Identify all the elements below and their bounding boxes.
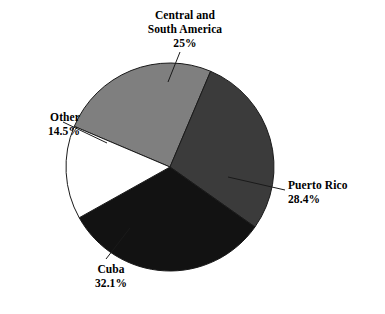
pie-label-name: Cuba — [72, 262, 150, 276]
pie-label-puerto-rico: Puerto Rico 28.4% — [288, 178, 384, 206]
pie-chart: Central and South America 25% Other 14.5… — [0, 0, 385, 314]
pie-label-value: 32.1% — [72, 276, 150, 290]
pie-label-value: 28.4% — [288, 192, 384, 206]
pie-label-name: Puerto Rico — [288, 178, 384, 192]
pie-label-name: Central and — [118, 8, 252, 22]
pie-label-cuba: Cuba 32.1% — [72, 262, 150, 290]
pie-label-central-and-south-america: Central and South America 25% — [118, 8, 252, 50]
pie-label-name-line2: South America — [118, 22, 252, 36]
pie-label-value: 14.5% — [8, 124, 80, 138]
pie-label-name: Other — [8, 110, 80, 124]
pie-label-value: 25% — [118, 36, 252, 50]
pie-label-other: Other 14.5% — [8, 110, 80, 138]
